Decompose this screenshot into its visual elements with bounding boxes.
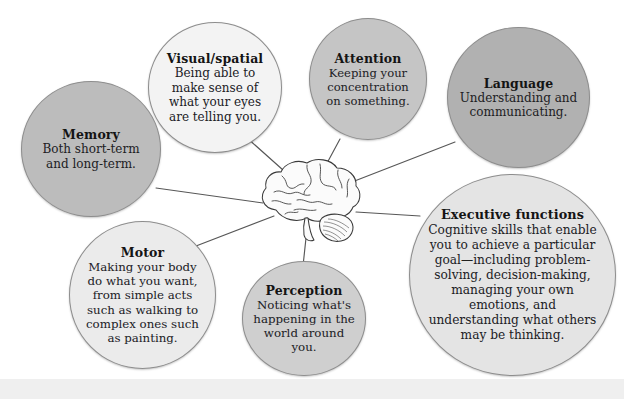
node-attention-description: Keeping your concentration on something. bbox=[318, 66, 418, 108]
diagram-canvas: Memory Both short-term and long-term. Vi… bbox=[0, 0, 624, 399]
node-perception-description: Noticing what's happening in the world a… bbox=[252, 298, 357, 355]
connector-memory bbox=[156, 188, 263, 203]
node-memory-content: Memory Both short-term and long-term. bbox=[22, 127, 160, 171]
node-executive-functions-description: Cognitive skills that enable you to achi… bbox=[424, 223, 600, 343]
node-attention[interactable]: Attention Keeping your concentration on … bbox=[309, 18, 427, 140]
footer-band bbox=[0, 379, 624, 399]
node-executive-functions[interactable]: Executive functions Cognitive skills tha… bbox=[409, 174, 616, 376]
node-memory-title: Memory bbox=[32, 127, 151, 142]
node-attention-title: Attention bbox=[318, 51, 418, 66]
node-motor-title: Motor bbox=[80, 245, 205, 260]
node-language-description: Understanding and communicating. bbox=[458, 91, 579, 120]
node-executive-functions-content: Executive functions Cognitive skills tha… bbox=[410, 207, 615, 343]
node-language-title: Language bbox=[458, 76, 579, 91]
node-perception[interactable]: Perception Noticing what's happening in … bbox=[242, 261, 366, 376]
node-executive-functions-title: Executive functions bbox=[424, 207, 600, 223]
node-attention-content: Attention Keeping your concentration on … bbox=[310, 51, 426, 108]
node-visual-spatial-description: Being able to make sense of what your ey… bbox=[158, 66, 272, 124]
node-visual-spatial[interactable]: Visual/spatial Being able to make sense … bbox=[148, 22, 282, 153]
node-motor[interactable]: Motor Making your body do what you want,… bbox=[69, 221, 216, 369]
node-language[interactable]: Language Understanding and communicating… bbox=[447, 27, 590, 168]
node-motor-content: Motor Making your body do what you want,… bbox=[70, 245, 215, 345]
node-motor-description: Making your body do what you want, from … bbox=[80, 260, 205, 345]
node-memory-description: Both short-term and long-term. bbox=[32, 142, 151, 171]
node-visual-spatial-content: Visual/spatial Being able to make sense … bbox=[149, 51, 281, 124]
node-perception-title: Perception bbox=[252, 283, 357, 298]
node-memory[interactable]: Memory Both short-term and long-term. bbox=[21, 81, 161, 217]
node-visual-spatial-title: Visual/spatial bbox=[158, 51, 272, 66]
node-perception-content: Perception Noticing what's happening in … bbox=[243, 283, 365, 355]
brain-icon bbox=[252, 152, 372, 252]
node-language-content: Language Understanding and communicating… bbox=[448, 76, 589, 120]
